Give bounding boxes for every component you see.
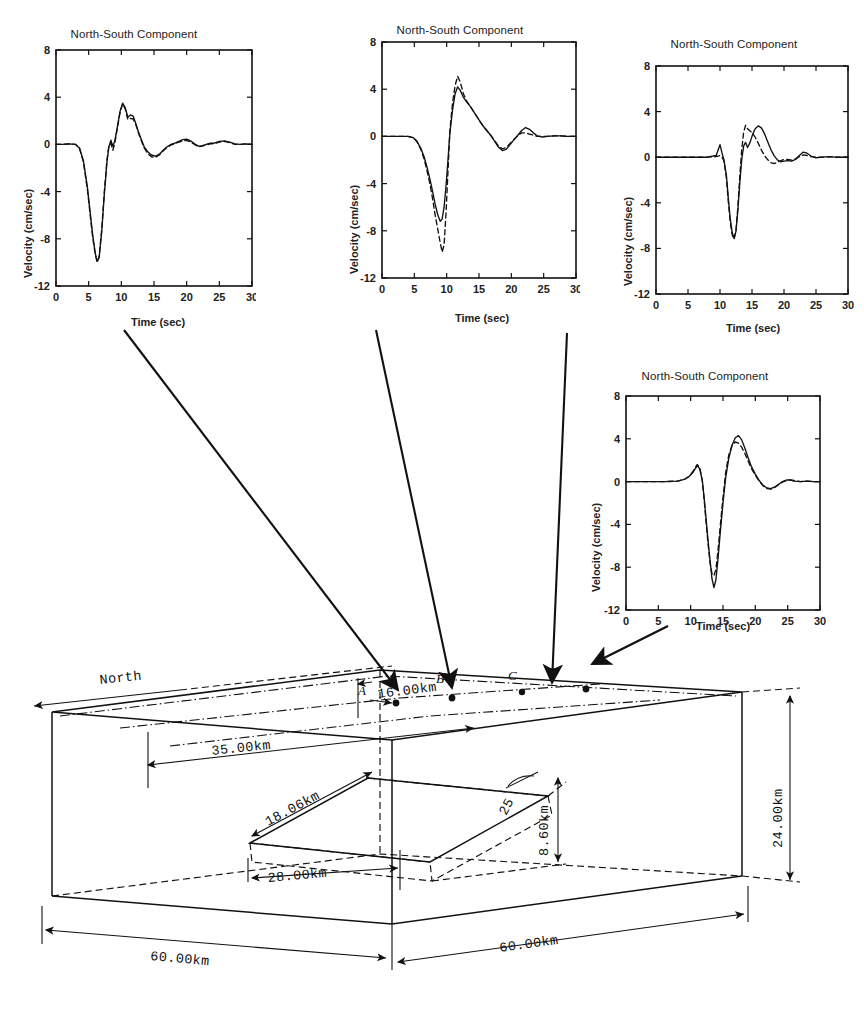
svg-text:8: 8 bbox=[644, 60, 650, 72]
figure-root: North-South Component Velocity (cm/sec) … bbox=[0, 0, 864, 1029]
dim-860-upper-ext bbox=[548, 782, 566, 796]
dim-860-label: 8.60km bbox=[537, 805, 552, 856]
svg-text:-4: -4 bbox=[40, 186, 51, 198]
dim-60-left-line bbox=[46, 930, 386, 958]
station-label-D: D bbox=[547, 664, 558, 679]
station-label-C: C bbox=[508, 668, 517, 683]
svg-text:5: 5 bbox=[86, 291, 92, 303]
svg-text:30: 30 bbox=[842, 299, 854, 311]
svg-text:10: 10 bbox=[115, 291, 127, 303]
svg-text:5: 5 bbox=[411, 283, 417, 295]
svg-text:-12: -12 bbox=[34, 280, 50, 292]
north-label: North bbox=[99, 669, 143, 688]
svg-text:10: 10 bbox=[441, 283, 453, 295]
svg-text:30: 30 bbox=[246, 291, 256, 303]
surface-centerline-b bbox=[170, 700, 660, 746]
svg-text:30: 30 bbox=[570, 283, 580, 295]
svg-text:20: 20 bbox=[505, 283, 517, 295]
plot-canvas-A: 051015202530-12-8-4048 bbox=[12, 28, 256, 334]
block-diagram: North A B C D 16.00km 35.00km 18.06km bbox=[0, 600, 864, 1029]
svg-text:15: 15 bbox=[473, 283, 485, 295]
dim-28km-label: 28.00km bbox=[267, 866, 328, 886]
svg-text:-8: -8 bbox=[366, 225, 376, 237]
station-label-B: B bbox=[436, 671, 444, 686]
svg-text:-4: -4 bbox=[640, 197, 651, 209]
dim-24km-upper-ext bbox=[742, 688, 800, 692]
svg-text:4: 4 bbox=[614, 433, 621, 445]
station-marker-B: B bbox=[436, 671, 455, 701]
svg-text:25: 25 bbox=[810, 299, 822, 311]
dip-angle-leg bbox=[506, 772, 538, 788]
svg-text:8: 8 bbox=[614, 390, 620, 402]
svg-text:0: 0 bbox=[653, 299, 659, 311]
seismogram-panel-C: North-South Component Velocity (cm/sec) … bbox=[614, 38, 854, 338]
dim-18km-label: 18.06km bbox=[263, 788, 323, 829]
svg-text:5: 5 bbox=[685, 299, 691, 311]
svg-text:15: 15 bbox=[746, 299, 758, 311]
svg-text:8: 8 bbox=[44, 44, 50, 56]
seismogram-panel-B: North-South Component Velocity (cm/sec) … bbox=[340, 24, 580, 330]
dim-60-right-line bbox=[398, 914, 744, 962]
svg-text:0: 0 bbox=[44, 138, 50, 150]
svg-text:0: 0 bbox=[53, 291, 59, 303]
svg-text:10: 10 bbox=[714, 299, 726, 311]
svg-text:-12: -12 bbox=[360, 272, 376, 284]
svg-text:-12: -12 bbox=[634, 288, 650, 300]
seismogram-panel-A: North-South Component Velocity (cm/sec) … bbox=[12, 28, 256, 334]
dim-16km-label: 16.00km bbox=[377, 680, 438, 702]
svg-text:0: 0 bbox=[379, 283, 385, 295]
svg-text:-4: -4 bbox=[366, 178, 377, 190]
dim-35km-label: 35.00km bbox=[211, 738, 272, 759]
dim-60-left-label: 60.00km bbox=[150, 949, 211, 969]
svg-text:0: 0 bbox=[644, 151, 650, 163]
dim-860-lower-ext bbox=[432, 864, 566, 881]
svg-text:0: 0 bbox=[614, 476, 620, 488]
svg-text:-8: -8 bbox=[610, 561, 620, 573]
fault-plane bbox=[250, 778, 548, 862]
dim-24km-lower-ext bbox=[742, 876, 800, 882]
svg-text:15: 15 bbox=[148, 291, 160, 303]
svg-text:20: 20 bbox=[778, 299, 790, 311]
svg-text:20: 20 bbox=[181, 291, 193, 303]
svg-text:25: 25 bbox=[213, 291, 225, 303]
plot-canvas-D: 051015202530-12-8-4048 bbox=[580, 370, 830, 638]
svg-text:0: 0 bbox=[370, 130, 376, 142]
station-marker-C: C bbox=[508, 668, 525, 695]
plot-canvas-B: 051015202530-12-8-4048 bbox=[340, 24, 580, 330]
svg-text:4: 4 bbox=[44, 91, 51, 103]
dim-24km-label: 24.00km bbox=[771, 788, 786, 848]
svg-text:-4: -4 bbox=[610, 518, 621, 530]
seismogram-panel-D: North-South Component Velocity (cm/sec) … bbox=[580, 370, 830, 638]
plot-canvas-C: 051015202530-12-8-4048 bbox=[614, 38, 854, 338]
station-marker-D: D bbox=[547, 664, 589, 692]
svg-text:25: 25 bbox=[538, 283, 550, 295]
svg-text:4: 4 bbox=[644, 106, 651, 118]
svg-text:8: 8 bbox=[370, 36, 376, 48]
dim-60-right-label: 60.00km bbox=[498, 933, 559, 956]
svg-text:4: 4 bbox=[370, 83, 377, 95]
svg-text:-8: -8 bbox=[640, 242, 650, 254]
svg-text:-8: -8 bbox=[40, 233, 50, 245]
